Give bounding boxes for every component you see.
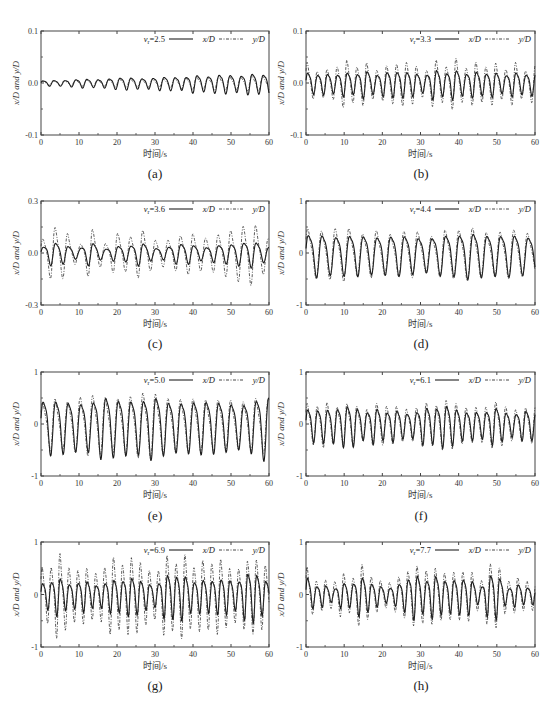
caption-b: (b) — [401, 166, 441, 182]
caption-h: (h) — [401, 678, 441, 694]
x-tick-label: 20 — [113, 479, 121, 488]
x-tick-label: 30 — [417, 138, 425, 147]
x-tick-label: 50 — [227, 138, 235, 147]
x-tick-label: 40 — [455, 308, 463, 317]
x-tick-label: 20 — [113, 138, 121, 147]
y-tick-label: 0 — [299, 249, 303, 258]
y-tick-label: 1 — [34, 368, 38, 377]
x-tick-label: 50 — [227, 479, 235, 488]
y-tick-label: 1 — [34, 538, 38, 547]
x-tick-label: 40 — [189, 138, 197, 147]
x-tick-label: 40 — [455, 650, 463, 659]
x-tick-label: 30 — [151, 650, 159, 659]
caption-c: (c) — [135, 336, 175, 352]
x-tick-label: 20 — [378, 479, 386, 488]
velocity-annotation: vr=3.3 — [410, 34, 431, 45]
x-tick-label: 10 — [340, 308, 348, 317]
x-tick-label: 20 — [378, 650, 386, 659]
y-axis-label: x/D and y/D — [11, 231, 21, 276]
y-tick-label: 0.0 — [28, 79, 38, 88]
x-axis-label: 时间/s — [143, 660, 168, 671]
x-tick-label: 40 — [189, 650, 197, 659]
velocity-annotation: vr=4.4 — [410, 204, 432, 215]
y-tick-label: 0 — [34, 420, 38, 429]
legend-x-label: x/D — [202, 375, 216, 385]
y-tick-label: 0.1 — [28, 27, 38, 36]
x-tick-label: 0 — [39, 479, 43, 488]
y-axis-label: x/D and y/D — [276, 61, 286, 106]
x-tick-label: 30 — [151, 308, 159, 317]
x-axis-label: 时间/s — [408, 660, 433, 671]
x-tick-label: 30 — [151, 479, 159, 488]
x-tick-label: 30 — [151, 138, 159, 147]
x-tick-label: 60 — [265, 650, 273, 659]
x-tick-label: 20 — [113, 308, 121, 317]
caption-a: (a) — [135, 166, 175, 182]
y-tick-label: 1 — [299, 197, 303, 206]
y-tick-label: 0 — [34, 591, 38, 600]
x-axis-label: 时间/s — [408, 489, 433, 500]
x-tick-label: 0 — [304, 650, 308, 659]
y-tick-label: 0.3 — [28, 197, 38, 206]
x-tick-label: 0 — [39, 308, 43, 317]
x-tick-label: 40 — [455, 138, 463, 147]
y-tick-label: 1 — [299, 368, 303, 377]
chart-panel-h: 0102030405060-101时间/sx/D and y/Dy/Dx/Dvr… — [276, 538, 539, 671]
y-tick-label: 1 — [299, 538, 303, 547]
y-tick-label: -1 — [296, 472, 303, 481]
x-axis-label: 时间/s — [143, 318, 168, 329]
x-tick-label: 0 — [39, 650, 43, 659]
x-tick-label: 10 — [75, 308, 83, 317]
x-tick-label: 10 — [340, 650, 348, 659]
legend-x-label: x/D — [468, 204, 482, 214]
x-axis-label: 时间/s — [408, 318, 433, 329]
x-tick-label: 10 — [75, 650, 83, 659]
legend-x-label: x/D — [468, 545, 482, 555]
y-axis-label: x/D and y/D — [11, 402, 21, 447]
velocity-annotation: vr=6.9 — [144, 545, 165, 556]
y-axis-label: x/D and y/D — [276, 572, 286, 617]
y-axis-label: x/D and y/D — [276, 231, 286, 276]
y-axis-label: x/D and y/D — [276, 402, 286, 447]
x-axis-label: 时间/s — [408, 148, 433, 159]
x-tick-label: 50 — [227, 308, 235, 317]
x-tick-label: 40 — [189, 479, 197, 488]
x-tick-label: 30 — [417, 479, 425, 488]
chart-panel-b: 0102030405060-0.10.00.1时间/sx/D and y/Dy/… — [276, 27, 539, 159]
y-tick-label: -1 — [296, 301, 303, 310]
series-x-line — [306, 71, 535, 101]
caption-e: (e) — [135, 508, 175, 524]
x-tick-label: 0 — [39, 138, 43, 147]
y-tick-label: -1 — [296, 643, 303, 652]
x-tick-label: 50 — [493, 650, 501, 659]
series-y-line — [306, 564, 535, 628]
x-tick-label: 20 — [378, 308, 386, 317]
legend-y-label: y/D — [252, 204, 266, 214]
x-tick-label: 60 — [531, 138, 539, 147]
caption-g: (g) — [135, 678, 175, 694]
y-tick-label: -0.1 — [25, 131, 38, 140]
x-tick-label: 50 — [493, 138, 501, 147]
velocity-annotation: vr=3.6 — [144, 204, 165, 215]
plot-frame — [41, 542, 269, 647]
x-tick-label: 60 — [265, 138, 273, 147]
x-tick-label: 40 — [455, 479, 463, 488]
legend-y-label: y/D — [252, 545, 266, 555]
x-tick-label: 10 — [75, 138, 83, 147]
x-tick-label: 60 — [265, 479, 273, 488]
x-tick-label: 60 — [531, 308, 539, 317]
y-tick-label: -1 — [31, 472, 38, 481]
velocity-annotation: vr=5.0 — [144, 375, 165, 386]
chart-panel-c: 0102030405060-0.30.00.3时间/sx/D and y/Dy/… — [11, 197, 273, 329]
legend-y-label: y/D — [518, 375, 532, 385]
legend-x-label: x/D — [202, 545, 216, 555]
y-tick-label: -0.1 — [290, 131, 303, 140]
chart-panel-e: 0102030405060-101时间/sx/D and y/Dy/Dx/Dvr… — [11, 368, 273, 500]
y-axis-label: x/D and y/D — [11, 61, 21, 106]
x-tick-label: 40 — [189, 308, 197, 317]
x-tick-label: 60 — [531, 479, 539, 488]
legend-x-label: x/D — [202, 204, 216, 214]
legend-x-label: x/D — [468, 34, 482, 44]
x-tick-label: 30 — [417, 650, 425, 659]
series-x-line — [41, 74, 269, 95]
